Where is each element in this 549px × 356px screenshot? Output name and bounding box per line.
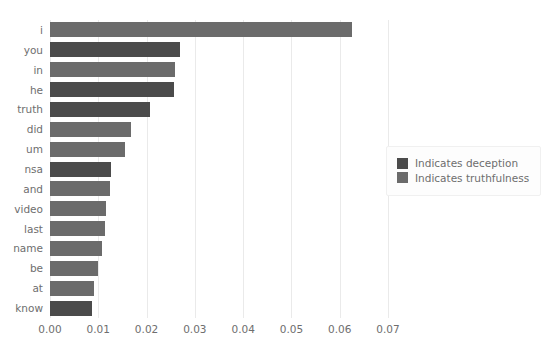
bar-row[interactable]: um [50, 142, 388, 157]
y-axis-tick-label: truth [17, 104, 43, 115]
bar-row[interactable]: at [50, 281, 388, 296]
legend-swatch-icon [397, 158, 408, 169]
y-axis-tick-label: last [24, 223, 43, 234]
y-axis-tick-label: i [40, 25, 43, 36]
bar[interactable] [50, 142, 125, 157]
bar-row[interactable]: he [50, 82, 388, 97]
y-axis-tick-label: and [23, 184, 43, 195]
bar[interactable] [50, 301, 92, 316]
bar[interactable] [50, 62, 175, 77]
bar[interactable] [50, 181, 110, 196]
bar[interactable] [50, 122, 131, 137]
x-axis-tick-label: 0.04 [231, 323, 254, 335]
bar-row[interactable]: know [50, 301, 388, 316]
legend-item[interactable]: Indicates truthfulness [397, 172, 530, 185]
legend-item[interactable]: Indicates deception [397, 157, 530, 170]
y-axis-tick-label: um [26, 144, 43, 155]
bar-row[interactable]: i [50, 22, 388, 37]
bar[interactable] [50, 241, 102, 256]
x-axis-tick-label: 0.01 [87, 323, 110, 335]
y-axis-tick-label: in [33, 64, 43, 75]
bar-row[interactable]: name [50, 241, 388, 256]
legend-swatch-icon [397, 172, 408, 183]
bar[interactable] [50, 42, 180, 57]
bar[interactable] [50, 261, 98, 276]
bar-row[interactable]: did [50, 122, 388, 137]
x-axis-tick-label: 0.05 [280, 323, 303, 335]
x-axis-tick-label: 0.00 [38, 323, 61, 335]
y-axis-tick-label: name [13, 243, 43, 254]
y-axis-tick-label: he [30, 84, 43, 95]
y-axis-tick-label: did [27, 124, 43, 135]
x-axis-tick-label: 0.03 [183, 323, 206, 335]
bar[interactable] [50, 82, 174, 97]
x-axis-tick-label: 0.07 [376, 323, 399, 335]
chart-legend: Indicates deceptionIndicates truthfulnes… [386, 146, 541, 196]
bar-chart: iyouinhetruthdidumnsaandvideolastnamebea… [0, 0, 549, 356]
bar-row[interactable]: in [50, 62, 388, 77]
bar-row[interactable]: nsa [50, 162, 388, 177]
bar-row[interactable]: be [50, 261, 388, 276]
y-axis-tick-label: video [14, 203, 43, 214]
bar[interactable] [50, 22, 352, 37]
bar-row[interactable]: truth [50, 102, 388, 117]
y-axis-tick-label: be [30, 263, 43, 274]
legend-label: Indicates truthfulness [415, 172, 529, 185]
y-axis-tick-label: nsa [24, 164, 43, 175]
bar[interactable] [50, 201, 106, 216]
x-axis-tick-label: 0.02 [135, 323, 158, 335]
bar[interactable] [50, 102, 150, 117]
bar-row[interactable]: last [50, 221, 388, 236]
x-axis-tick-label: 0.06 [328, 323, 351, 335]
legend-label: Indicates deception [415, 157, 518, 170]
bar[interactable] [50, 281, 94, 296]
bar[interactable] [50, 221, 105, 236]
bar-row[interactable]: and [50, 181, 388, 196]
bar[interactable] [50, 162, 111, 177]
y-axis-tick-label: know [15, 303, 43, 314]
plot-area: iyouinhetruthdidumnsaandvideolastnamebea… [50, 20, 388, 318]
y-axis-tick-label: at [32, 283, 43, 294]
bar-row[interactable]: video [50, 201, 388, 216]
y-axis-tick-label: you [24, 45, 43, 56]
bar-row[interactable]: you [50, 42, 388, 57]
